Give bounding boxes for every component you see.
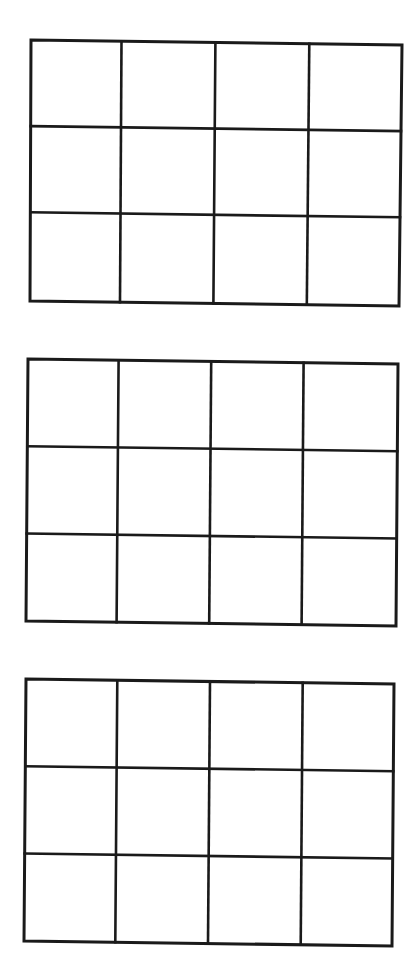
grid-cell [25, 766, 117, 855]
grid-sheet [0, 0, 418, 976]
grid-cell [301, 770, 393, 859]
grid-cell [31, 40, 122, 127]
grid-cell [302, 683, 394, 771]
worksheet-page [0, 0, 418, 976]
grid-cell [303, 363, 398, 452]
grid-cell [121, 127, 215, 214]
grid-1 [30, 40, 402, 306]
grid-cell [118, 360, 211, 449]
grid-cell [25, 679, 117, 768]
grid-cell [209, 536, 302, 625]
grid-cell [215, 43, 310, 130]
grid-cell [120, 214, 214, 304]
grid-cell [209, 682, 302, 771]
grid-cell [117, 448, 210, 537]
grid-cell [302, 537, 397, 626]
grid-cell [24, 854, 116, 943]
grid-cell [115, 855, 208, 944]
grid-cell [308, 130, 401, 217]
grid-cell [210, 449, 303, 538]
grid-cell [116, 768, 209, 857]
grid-cell [30, 212, 121, 302]
grid-cell [307, 216, 400, 306]
grid-cell [117, 680, 210, 769]
grid-cell [27, 359, 118, 448]
grid-cell [302, 450, 397, 539]
grid-2 [26, 359, 398, 626]
grid-cell [121, 41, 215, 128]
grid-cell [208, 856, 301, 945]
grid-cell [209, 769, 302, 858]
grid-cell [26, 534, 117, 623]
grid-column-divider [120, 41, 122, 302]
grid-3 [24, 679, 394, 946]
grid-cell [301, 857, 393, 946]
grid-cell [30, 126, 121, 213]
grid-cell [214, 129, 308, 216]
grid-cell [27, 446, 118, 535]
grid-cell [308, 44, 402, 131]
grid-cell [213, 215, 307, 305]
grid-cell [117, 535, 210, 624]
grid-cell [211, 362, 304, 451]
